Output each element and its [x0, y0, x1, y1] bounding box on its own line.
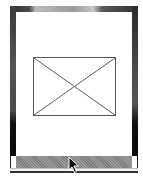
broken-image-icon: [34, 58, 115, 115]
picture-frame[interactable]: [10, 6, 138, 174]
arrow-cursor-icon: [68, 156, 80, 174]
screen: [0, 0, 143, 180]
frame-canvas: [16, 12, 132, 156]
frame-right-edge: [132, 6, 138, 156]
bottom-right-corner: [132, 156, 138, 168]
image-placeholder[interactable]: [33, 57, 116, 116]
